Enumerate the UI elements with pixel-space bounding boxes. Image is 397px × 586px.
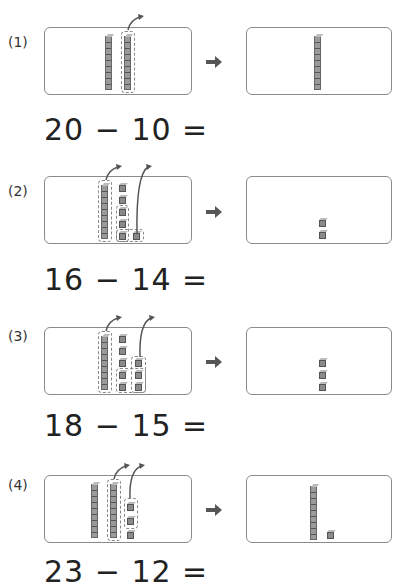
curved-arrow-icon <box>137 315 157 357</box>
curved-arrow-icon <box>104 164 124 180</box>
ten-rod <box>105 36 112 90</box>
right-arrow-icon <box>206 56 222 68</box>
curved-arrow-icon <box>104 315 124 331</box>
one-cube <box>119 348 126 355</box>
ten-rod <box>101 336 108 390</box>
one-cube <box>135 384 142 391</box>
one-cube <box>119 221 126 228</box>
problem-label: (2) <box>8 183 28 199</box>
before-box <box>44 327 192 395</box>
one-cube <box>119 372 126 379</box>
one-cube <box>119 197 126 204</box>
one-cube <box>119 360 126 367</box>
equation: 23 − 12 = <box>44 554 208 586</box>
one-cube <box>119 336 126 343</box>
one-cube <box>319 232 326 239</box>
one-cube <box>135 372 142 379</box>
equation: 18 − 15 = <box>44 408 208 443</box>
one-cube <box>327 532 334 539</box>
ten-rod <box>91 484 98 538</box>
one-cube <box>319 360 326 367</box>
ten-rod <box>110 484 117 538</box>
before-box <box>44 27 192 95</box>
one-cube <box>319 384 326 391</box>
problem-label: (3) <box>8 328 28 344</box>
one-cube <box>127 532 134 539</box>
right-arrow-icon <box>206 356 222 368</box>
one-cube <box>319 372 326 379</box>
one-cube <box>119 384 126 391</box>
curved-arrow-icon <box>127 463 147 498</box>
before-box <box>44 475 192 543</box>
right-arrow-icon <box>206 206 222 218</box>
one-cube <box>119 233 126 240</box>
problem-label: (4) <box>8 477 28 493</box>
equation: 20 − 10 = <box>44 112 208 147</box>
one-cube <box>119 185 126 192</box>
problem-label: (1) <box>8 34 28 50</box>
one-cube <box>119 209 126 216</box>
ten-rod <box>310 486 317 540</box>
curved-arrow-icon <box>134 164 154 234</box>
one-cube <box>135 360 142 367</box>
one-cube <box>127 504 134 511</box>
right-arrow-icon <box>206 504 222 516</box>
ten-rod <box>124 36 131 90</box>
one-cube <box>319 220 326 227</box>
after-box <box>246 475 392 543</box>
equation: 16 − 14 = <box>44 262 208 297</box>
ten-rod <box>101 185 108 239</box>
after-box <box>246 176 392 244</box>
one-cube <box>127 518 134 525</box>
one-cube <box>133 233 140 240</box>
curved-arrow-icon <box>126 14 146 30</box>
after-box <box>246 327 392 395</box>
ten-rod <box>314 36 321 90</box>
after-box <box>246 27 392 95</box>
before-box <box>44 176 192 244</box>
